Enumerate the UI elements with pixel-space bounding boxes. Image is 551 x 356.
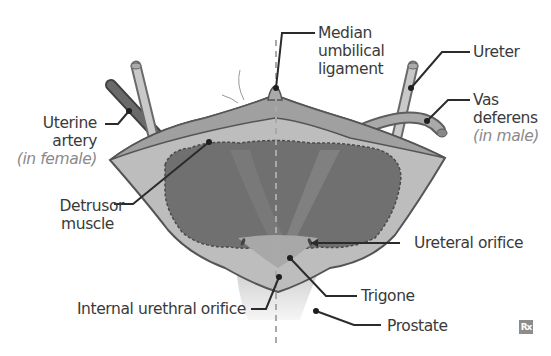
detrusor-muscle-shape [165, 141, 401, 249]
label-line: ligament [318, 60, 384, 78]
label-ureter: Ureter [473, 43, 520, 61]
label-median-umbilical-ligament: Median umbilical ligament [318, 24, 384, 78]
label-line: Vas [473, 91, 539, 109]
label-detrusor-muscle: Detrusor muscle [60, 197, 124, 233]
label-internal-urethral-orifice: Internal urethral orifice [77, 300, 246, 318]
label-line: deferens [473, 109, 539, 127]
label-prostate: Prostate [387, 317, 448, 335]
label-vas-deferens: Vas deferens (in male) [473, 91, 539, 145]
label-note: (in female) [17, 150, 97, 168]
label-line: umbilical [318, 42, 384, 60]
label-line: artery [17, 132, 97, 150]
label-line: Uterine [17, 114, 97, 132]
label-line: muscle [60, 215, 124, 233]
label-note: (in male) [473, 127, 539, 145]
label-ureteral-orifice: Ureteral orifice [414, 234, 523, 252]
label-trigone: Trigone [361, 287, 415, 305]
label-line: Detrusor [60, 197, 124, 215]
rx-watermark-icon: Rx [519, 320, 533, 334]
right-ureter-vessel [395, 63, 418, 145]
bladder-diagram: Median umbilical ligament Ureter Vas def… [0, 0, 551, 356]
clipped-heading-remnant [0, 0, 551, 3]
label-line: Median [318, 24, 384, 42]
label-uterine-artery: Uterine artery (in female) [17, 114, 97, 168]
